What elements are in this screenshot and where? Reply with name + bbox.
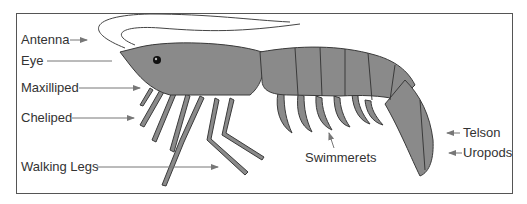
label-telson: Telson bbox=[463, 126, 501, 140]
label-eye: Eye bbox=[21, 54, 43, 68]
swimmerets-shape bbox=[277, 92, 383, 133]
label-uropods: Uropods bbox=[463, 146, 512, 160]
label-antenna: Antenna bbox=[21, 33, 69, 47]
label-swimmerets: Swimmerets bbox=[305, 151, 377, 165]
eye-shape bbox=[153, 56, 161, 64]
legs bbox=[140, 88, 264, 186]
label-walking-legs: Walking Legs bbox=[21, 160, 99, 174]
label-maxilliped: Maxilliped bbox=[21, 81, 79, 95]
label-cheliped: Cheliped bbox=[21, 111, 72, 125]
